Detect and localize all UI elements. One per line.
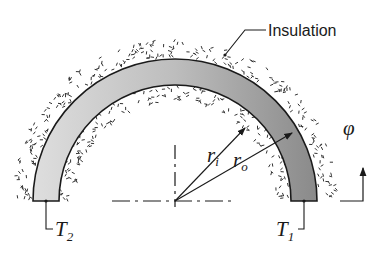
phi-label: φ xyxy=(343,116,355,140)
diagram-canvas: ri ro Insulation φ T2 T1 xyxy=(0,0,381,260)
insulation-label: Insulation xyxy=(268,22,337,39)
t2-leader-line xyxy=(46,201,53,229)
outer-radius-label: ro xyxy=(233,148,248,174)
phi-angle-arrow xyxy=(340,168,363,201)
t2-label: T2 xyxy=(55,217,74,244)
t1-leader-line xyxy=(298,201,304,229)
insulation-leader-dot xyxy=(223,53,226,56)
insulation-leader-line xyxy=(225,30,266,55)
t1-label: T1 xyxy=(276,217,294,244)
inner-radius-label: ri xyxy=(207,143,219,169)
